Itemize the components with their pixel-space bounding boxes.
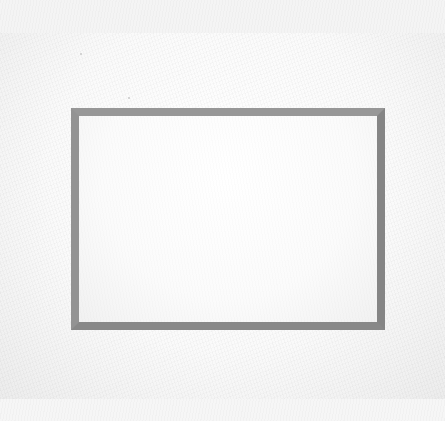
mat-window-opening [79,116,377,322]
mat-speck [80,53,82,55]
mat-bevel-frame [71,108,385,330]
background-strip-bottom [0,399,445,421]
background-strip-top [0,0,445,33]
mat-speck [128,97,130,99]
